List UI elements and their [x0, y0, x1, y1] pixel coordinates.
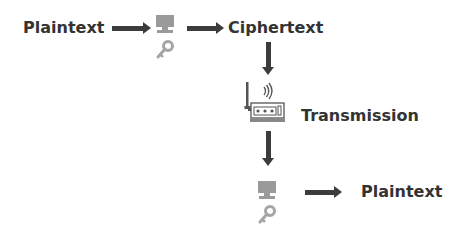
- computer-icon: [154, 14, 176, 36]
- arrow-down-2: [266, 131, 271, 159]
- plaintext-output-label: Plaintext: [361, 182, 442, 201]
- arrow-down-1: [266, 42, 271, 68]
- arrow-right-3: [305, 190, 335, 195]
- arrow-right-2: [187, 26, 217, 31]
- computer-icon: [256, 180, 278, 202]
- wireless-router-icon: [243, 80, 291, 130]
- transmission-label: Transmission: [301, 106, 419, 125]
- key-icon: [257, 205, 277, 227]
- plaintext-input-label: Plaintext: [23, 18, 104, 37]
- arrow-right-1: [112, 26, 144, 31]
- ciphertext-label: Ciphertext: [228, 18, 323, 37]
- key-icon: [155, 40, 175, 62]
